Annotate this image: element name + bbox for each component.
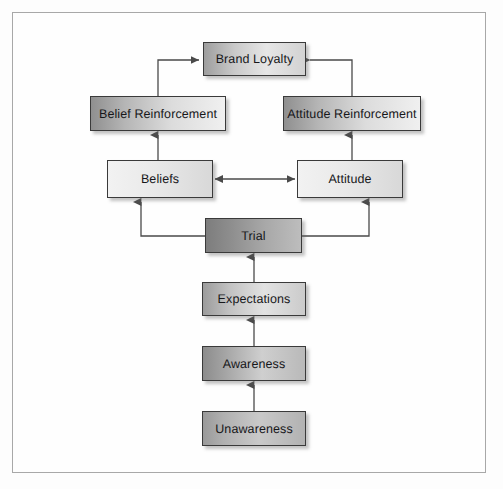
node-attitude[interactable]: Attitude [297,160,403,198]
node-label: Attitude [328,172,371,186]
node-label: Attitude Reinforcement [287,107,416,121]
node-beliefs[interactable]: Beliefs [107,160,213,198]
node-expectations[interactable]: Expectations [202,282,306,316]
node-unawareness[interactable]: Unawareness [202,411,306,446]
diagram-canvas: Brand Loyalty Belief Reinforcement Attit… [0,0,503,489]
node-awareness[interactable]: Awareness [202,346,306,381]
node-label: Expectations [218,292,291,306]
node-label: Awareness [223,357,286,371]
node-label: Belief Reinforcement [99,107,217,121]
node-attitude-reinforcement[interactable]: Attitude Reinforcement [283,96,421,131]
node-trial[interactable]: Trial [205,218,302,253]
node-belief-reinforcement[interactable]: Belief Reinforcement [90,96,226,131]
node-label: Unawareness [215,422,293,436]
node-brand-loyalty[interactable]: Brand Loyalty [203,42,306,76]
node-label: Brand Loyalty [216,52,294,66]
node-label: Beliefs [141,172,179,186]
node-label: Trial [241,229,265,243]
